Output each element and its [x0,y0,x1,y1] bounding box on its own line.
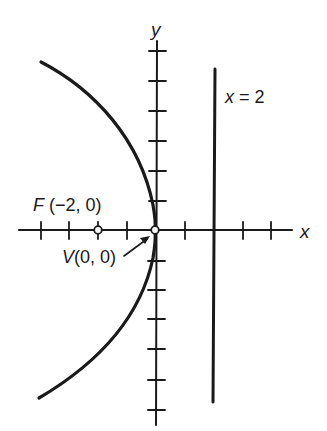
vertex-point [151,226,159,234]
diagram-canvas [0,0,327,431]
vertex-coordinates: (0, 0) [74,247,116,267]
x-axis-label: x [300,222,310,241]
vertex-letter: V [62,247,74,267]
directrix-line [213,69,215,402]
y-axis-label: y [151,20,161,39]
directrix-variable: x [225,87,234,107]
directrix-equation: = 2 [234,87,265,107]
focus-label: F (−2, 0) [33,196,102,214]
parabola-figure: y x x = 2 F (−2, 0) V(0, 0) [0,0,327,431]
focus-coordinates: (−2, 0) [49,195,102,215]
vertex-label: V(0, 0) [62,248,116,266]
focus-letter: F [33,195,44,215]
directrix-label: x = 2 [225,88,265,106]
focus-point [94,226,102,234]
